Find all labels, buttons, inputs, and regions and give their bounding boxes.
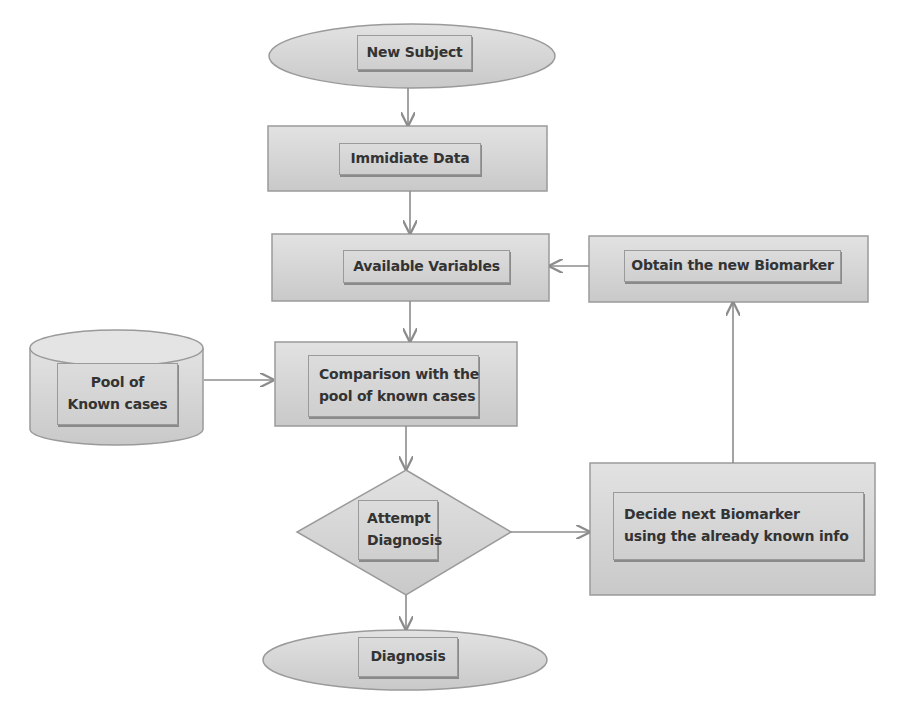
pool-text-line1: Pool of (91, 372, 144, 394)
new-subject-label: New Subject (357, 35, 472, 70)
diagnosis-label: Diagnosis (358, 637, 458, 677)
decide-biomarker-label: Decide next Biomarker using the already … (613, 492, 864, 560)
new-subject-text: New Subject (366, 42, 462, 64)
comparison-label: Comparison with the pool of known cases (308, 355, 479, 417)
available-variables-text: Available Variables (353, 256, 500, 278)
decide-text-line1: Decide next Biomarker (624, 504, 800, 526)
attempt-diagnosis-label: Attempt Diagnosis (358, 500, 438, 560)
comparison-text-line2: pool of known cases (319, 386, 475, 408)
immidiate-data-text: Immidiate Data (351, 148, 470, 170)
diagnosis-text: Diagnosis (370, 646, 445, 668)
attempt-text-line2: Diagnosis (367, 530, 442, 552)
obtain-biomarker-text: Obtain the new Biomarker (631, 255, 834, 277)
decide-text-line2: using the already known info (624, 526, 849, 548)
pool-text-line2: Known cases (68, 394, 168, 416)
attempt-text-line1: Attempt (367, 508, 431, 530)
immidiate-data-label: Immidiate Data (339, 143, 481, 175)
comparison-text-line1: Comparison with the (319, 364, 479, 386)
pool-label: Pool of Known cases (57, 363, 178, 425)
available-variables-label: Available Variables (343, 250, 510, 283)
obtain-biomarker-label: Obtain the new Biomarker (624, 250, 841, 282)
